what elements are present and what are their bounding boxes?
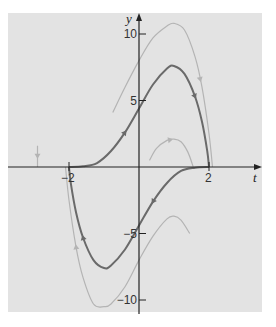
x-tick-label: −2 [61, 171, 75, 185]
phase-line-chart: t y −22105−5−10 [0, 0, 276, 327]
solution-curves [35, 23, 213, 307]
x-tick-label: 2 [205, 171, 212, 185]
y-axis-arrow-icon [136, 13, 142, 21]
curve-nearby-upper [113, 23, 213, 167]
direction-arrow-icon [167, 137, 172, 143]
direction-arrow-icon [197, 76, 203, 82]
y-tick-label: −5 [123, 227, 137, 241]
curve-small-arc [150, 139, 194, 167]
y-axis-label: y [124, 11, 132, 26]
t-axis-label: t [253, 170, 257, 185]
direction-arrow-icon [73, 244, 79, 249]
y-tick-label: 5 [130, 94, 137, 108]
direction-arrow-icon [35, 154, 41, 159]
y-tick-label: 10 [124, 27, 138, 41]
y-tick-label: −10 [117, 293, 138, 307]
